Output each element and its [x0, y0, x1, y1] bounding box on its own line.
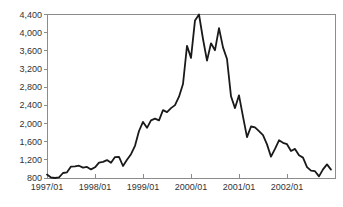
x-axis-label: 1999/01: [127, 182, 160, 192]
y-axis-label: 4,400: [19, 10, 42, 20]
x-axis-label: 1998/01: [79, 182, 112, 192]
y-axis-label: 3,200: [19, 64, 42, 74]
y-axis-label: 1,600: [19, 137, 42, 147]
y-axis-label: 2,800: [19, 82, 42, 92]
y-axis-label: 2,000: [19, 119, 42, 129]
x-axis-label: 2001/01: [223, 182, 256, 192]
y-axis-label: 4,000: [19, 28, 42, 38]
plot-frame: [47, 15, 335, 179]
chart-canvas: 8001,2001,6002,0002,4002,8003,2003,6004,…: [0, 0, 343, 207]
line-chart: 8001,2001,6002,0002,4002,8003,2003,6004,…: [0, 0, 343, 207]
y-axis-label: 1,200: [19, 155, 42, 165]
data-series-line: [47, 15, 331, 179]
x-axis-label: 1997/01: [31, 182, 64, 192]
y-axis-label: 3,600: [19, 46, 42, 56]
x-axis-label: 2000/01: [175, 182, 208, 192]
x-axis-label: 2002/01: [271, 182, 304, 192]
y-axis-label: 2,400: [19, 100, 42, 110]
